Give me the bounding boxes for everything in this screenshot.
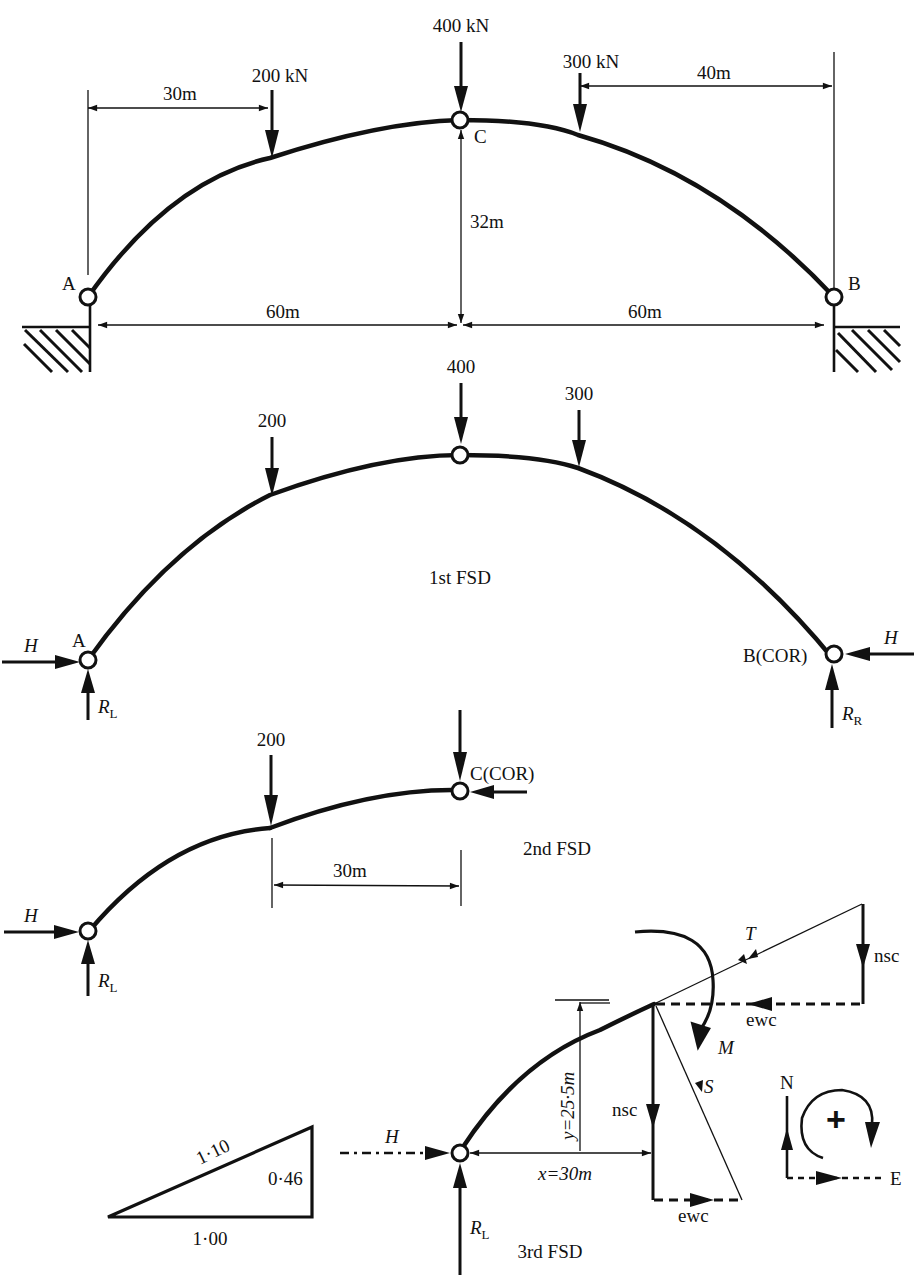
- arrow-curved-icon: [691, 1018, 715, 1051]
- dim-y-label: y=25·5m: [557, 1072, 578, 1142]
- arrow-right-icon: [425, 1146, 450, 1160]
- arrow-right-icon: [816, 1171, 842, 1185]
- hinge-A: [80, 289, 96, 305]
- sign-convention: N E +: [780, 1072, 902, 1189]
- label-C-cor: C(COR): [470, 763, 534, 785]
- dim-left-span-label: 60m: [266, 301, 300, 322]
- svg-text:RL: RL: [97, 970, 118, 995]
- reaction-left: RL: [81, 669, 118, 721]
- load-crown: [453, 710, 467, 781]
- arch-curve: [88, 455, 834, 660]
- hinge-B: [826, 646, 842, 662]
- dim-30m-line: [274, 885, 459, 886]
- svg-text:ewc: ewc: [746, 1009, 777, 1030]
- arrow-left-icon: [845, 647, 870, 661]
- dim-40m-label: 40m: [697, 62, 731, 83]
- arrow-down-icon: [856, 944, 870, 968]
- load-200: 200: [258, 410, 287, 496]
- horizontal-force-left: H: [2, 635, 80, 669]
- arrow-right-icon: [54, 925, 79, 939]
- svg-text:nsc: nsc: [874, 945, 899, 966]
- ewc-bottom-force: ewc: [654, 1193, 742, 1226]
- moment-M: M: [635, 931, 735, 1058]
- arrow-down-icon: [573, 104, 587, 132]
- dim-30m-label: 30m: [333, 860, 367, 881]
- dim-x-label: x=30m: [537, 1163, 592, 1184]
- label-E: E: [890, 1168, 902, 1189]
- base-label: 1·00: [193, 1228, 228, 1249]
- fixed-support-left: [22, 300, 90, 372]
- arrow-up-icon: [781, 1128, 793, 1150]
- horizontal-force: H: [4, 905, 79, 939]
- hinge-B: [826, 289, 842, 305]
- dim-rise-label: 32m: [470, 211, 504, 232]
- arrow-down-icon: [454, 417, 468, 444]
- svg-text:RR: RR: [841, 703, 863, 728]
- vertical-label: 0·46: [268, 1168, 303, 1189]
- arrow-down-icon: [572, 440, 586, 467]
- horizontal-force-right: H: [845, 627, 914, 661]
- horizontal-force-crown: [470, 785, 527, 799]
- arch-free-body-diagrams: 30m 40m 60m 60m 32m 200 kN 400 kN 300 kN: [0, 0, 920, 1281]
- svg-text:300: 300: [565, 383, 594, 404]
- reaction-left: RL: [453, 1163, 490, 1275]
- fsd2-diagram: 200 C(COR) 30m 2nd FSD H RL: [4, 710, 591, 996]
- arrow-down-icon: [264, 795, 278, 826]
- label-S: S: [704, 1076, 714, 1097]
- label-A: A: [72, 630, 86, 651]
- svg-text:200: 200: [257, 729, 286, 750]
- ewc-top-force: ewc: [656, 997, 862, 1030]
- arrow-up-icon: [81, 940, 95, 964]
- arrow-up-icon: [825, 664, 839, 690]
- arrow-down-icon: [646, 1104, 660, 1128]
- nsc-top-force: nsc: [856, 904, 899, 1004]
- fsd3-title: 3rd FSD: [518, 1241, 583, 1262]
- load-200: 200: [257, 729, 286, 826]
- nsc-mid-force: nsc: [612, 1004, 660, 1200]
- arrow-icon: [695, 1080, 703, 1092]
- svg-text:400: 400: [447, 356, 476, 377]
- svg-text:200 kN: 200 kN: [252, 65, 309, 86]
- hinge-C: [452, 783, 468, 799]
- load-400: 400: [447, 356, 476, 444]
- svg-text:ewc: ewc: [678, 1205, 709, 1226]
- label-C: C: [474, 126, 487, 147]
- half-arch-curve-drawn: [90, 828, 270, 930]
- load-200kn: 200 kN: [252, 65, 309, 158]
- fsd2-title: 2nd FSD: [523, 838, 591, 859]
- label-B-cor: B(COR): [743, 645, 807, 667]
- hinge-C: [452, 447, 468, 463]
- svg-text:400 kN: 400 kN: [433, 15, 490, 36]
- reaction-left: RL: [81, 940, 118, 996]
- fsd1-diagram: 200 400 300 1st FSD A B(COR) H RL: [2, 356, 914, 728]
- label-N: N: [780, 1072, 794, 1093]
- fixed-support-right: [834, 300, 900, 372]
- hinge-A: [452, 1145, 468, 1161]
- arrow-right-icon: [55, 655, 80, 669]
- load-300: 300: [565, 383, 594, 467]
- label-B: B: [848, 273, 861, 294]
- svg-text:200: 200: [258, 410, 287, 431]
- arch-diagram: 30m 40m 60m 60m 32m 200 kN 400 kN 300 kN: [22, 15, 900, 372]
- label-T: T: [745, 923, 757, 944]
- svg-text:H: H: [23, 635, 39, 656]
- arrow-down-icon: [454, 86, 468, 112]
- arrow-up-icon: [453, 1163, 467, 1188]
- dim-30m-label: 30m: [163, 83, 197, 104]
- svg-text:RL: RL: [469, 1217, 490, 1242]
- svg-text:H: H: [23, 905, 39, 926]
- svg-text:nsc: nsc: [612, 1099, 637, 1120]
- horizontal-force: H: [340, 1126, 450, 1160]
- svg-text:H: H: [384, 1126, 400, 1147]
- svg-text:H: H: [883, 627, 899, 648]
- arrow-up-icon: [81, 669, 95, 693]
- fsd1-title: 1st FSD: [429, 567, 491, 588]
- dim-right-span-label: 60m: [628, 301, 662, 322]
- arrow-down-icon: [865, 1122, 880, 1148]
- load-300kn: 300 kN: [563, 51, 620, 132]
- slope-triangle: 1·10 0·46 1·00: [108, 1127, 312, 1249]
- svg-text:RL: RL: [97, 696, 118, 721]
- svg-text:M: M: [717, 1037, 735, 1058]
- hinge-C: [452, 112, 468, 128]
- thrust-line: [654, 904, 862, 1004]
